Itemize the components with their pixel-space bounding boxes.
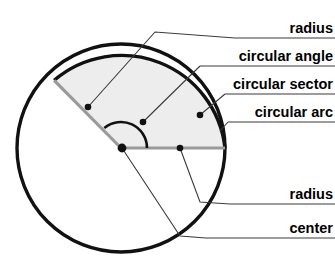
point-marker-radius-lower [177, 145, 184, 152]
label-circular-angle: circular angle [239, 48, 333, 64]
point-marker-center [118, 144, 127, 153]
circle-diagram: radius circular angle circular sector ci… [0, 0, 335, 266]
label-center: center [289, 220, 333, 236]
point-marker-circular-sector [197, 112, 204, 119]
label-radius-upper: radius [289, 20, 333, 36]
label-radius-lower: radius [289, 186, 333, 202]
point-marker-circular-angle [140, 119, 147, 126]
label-circular-sector: circular sector [233, 76, 333, 92]
point-marker-radius-upper [85, 104, 92, 111]
label-circular-arc: circular arc [255, 104, 333, 120]
circular-sector-region [54, 55, 225, 148]
geometry-figure-canvas: radius circular angle circular sector ci… [0, 0, 335, 266]
